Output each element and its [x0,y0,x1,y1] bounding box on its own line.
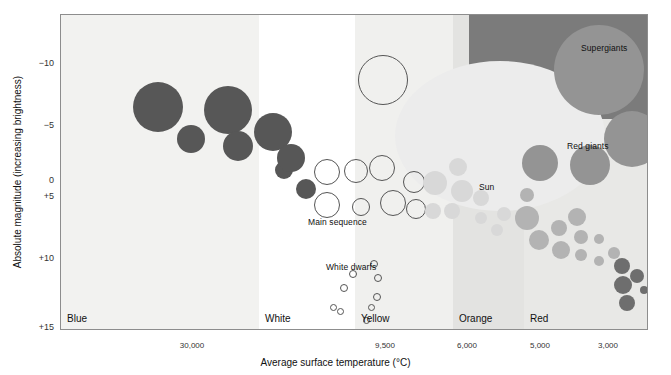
star-marker-blue-giants [177,125,205,153]
x-tick-9500: 9,500 [375,341,395,350]
star-marker-main-sequence-white [352,198,370,216]
color-label-blue: Blue [67,313,87,324]
x-tick-6000: 6,000 [457,341,477,350]
star-marker-red-dwarfs [630,269,644,283]
annotation-sun: Sun [479,182,494,192]
annotation-main-sequence: Main sequence [308,217,367,227]
color-label-white: White [265,313,291,324]
star-marker-red-dwarfs [640,286,648,294]
star-marker-white-dwarfs [373,293,381,301]
star-marker-orange-sequence [529,230,549,250]
annotation-white-dwarfs: White dwarfs [326,262,376,272]
star-marker-orange-sequence [520,188,534,202]
star-marker-white-dwarfs [337,308,344,315]
star-marker-main-sequence-white [344,159,368,183]
star-marker-main-sequence-white [403,171,425,193]
star-marker-red-giants [570,145,610,185]
y-axis-ticks: −10−50+5+10+15 [22,0,54,375]
color-label-red: Red [530,313,548,324]
star-marker-orange-sequence [551,220,567,236]
star-marker-red-giants [554,25,644,115]
star-marker-white-dwarfs [330,304,337,311]
star-marker-yellow-sequence [425,203,441,219]
plot-area: SupergiantsRed giantsSunMain sequenceWhi… [60,14,648,330]
star-marker-red-dwarfs [614,258,630,274]
star-marker-orange-sequence [515,206,539,230]
band-blue [61,15,259,329]
star-marker-white-dwarfs [368,304,375,311]
star-marker-yellow-sequence [491,224,503,236]
star-marker-blue-giants [204,86,252,134]
star-marker-main-sequence-white [406,199,426,219]
color-label-orange: Orange [459,313,492,324]
star-marker-red-giants [522,145,558,181]
star-marker-orange-sequence [552,241,570,259]
y-tick-5-pos: +5 [28,191,54,201]
star-marker-main-sequence-white [314,192,340,218]
x-tick-5000: 5,000 [530,341,550,350]
star-marker-red-dwarfs [619,295,635,311]
star-marker-main-sequence-white [369,155,395,181]
color-label-yellow: Yellow [361,313,390,324]
y-tick-0-neg: 0 [28,175,54,185]
annotation-supergiants: Supergiants [581,43,627,53]
x-axis-label: Average surface temperature (°C) [0,357,671,368]
y-tick-15-pos: +15 [28,322,54,332]
star-marker-blue-giants [133,82,183,132]
star-marker-orange-sequence [568,208,586,226]
x-tick-30000: 30,000 [180,341,204,350]
star-marker-yellow-sequence [444,203,460,219]
star-marker-yellow-sequence [451,180,473,202]
star-marker-blue-giants [296,179,316,199]
annotation-red-giants: Red giants [567,141,609,151]
star-marker-blue-giants [277,144,305,172]
star-marker-orange-sequence [575,249,587,261]
star-marker-orange-sequence [594,234,604,244]
x-tick-3000: 3,000 [598,341,618,350]
star-marker-blue-giants [223,131,253,161]
star-marker-orange-sequence [594,256,604,266]
star-marker-orange-sequence [608,247,620,259]
band-white [259,15,355,329]
star-marker-orange-sequence [574,230,588,244]
star-marker-yellow-sequence [449,158,467,176]
hr-diagram-figure: SupergiantsRed giantsSunMain sequenceWhi… [0,0,671,375]
y-tick-5-neg: −5 [28,120,54,130]
star-marker-main-sequence-white [314,159,340,185]
star-marker-red-dwarfs [614,276,632,294]
star-marker-white-dwarfs [374,274,382,282]
star-marker-yellow-sequence [473,190,489,206]
y-tick-10-pos: +10 [28,253,54,263]
y-tick-10-neg: −10 [28,58,54,68]
star-marker-yellow-sequence [475,212,487,224]
star-marker-main-sequence-white [358,55,408,105]
star-marker-main-sequence-white [380,190,406,216]
star-marker-white-dwarfs [340,284,348,292]
star-marker-yellow-sequence [423,171,447,195]
star-marker-yellow-sequence [497,207,511,221]
